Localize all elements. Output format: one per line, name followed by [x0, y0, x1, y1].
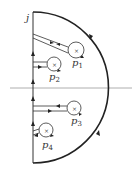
- arrow-icon: [31, 96, 35, 101]
- arrow-icon: [31, 79, 35, 84]
- pole-marker-p4: ×: [44, 127, 49, 134]
- pole-marker-p1: ×: [74, 47, 79, 54]
- arrow-icon: [50, 134, 54, 137]
- arrow-icon: [48, 109, 52, 113]
- arrow-icon: [38, 65, 42, 69]
- arrow-icon: [96, 130, 100, 136]
- pole-label-p2: p2: [49, 71, 60, 84]
- pole-label-p3: p3: [71, 115, 82, 128]
- pole-marker-p2: ×: [52, 61, 57, 68]
- pole-marker-p3: ×: [72, 105, 77, 112]
- contour-diagram: j × p1 × p2 × p3 × p4: [0, 0, 140, 177]
- arrow-icon: [31, 51, 35, 56]
- pole-label-p4: p4: [42, 139, 53, 152]
- arrow-icon: [79, 113, 82, 116]
- indent-path-p4: [33, 129, 39, 135]
- arrow-icon: [31, 121, 35, 126]
- arrow-icon: [56, 104, 60, 108]
- pole-label-p1: p1: [72, 57, 83, 70]
- axis-label-j: j: [24, 12, 29, 23]
